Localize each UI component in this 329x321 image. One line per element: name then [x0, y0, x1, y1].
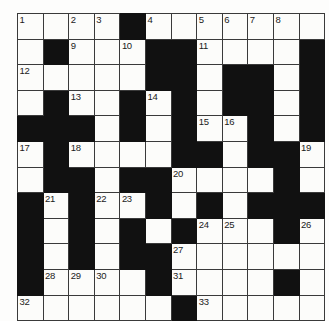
crossword-cell[interactable] — [120, 295, 146, 321]
crossword-cell-numbered[interactable]: 28 — [43, 269, 69, 295]
crossword-cell-numbered[interactable]: 2 — [69, 14, 95, 40]
crossword-cell[interactable] — [299, 14, 325, 40]
crossword-cell-numbered[interactable]: 7 — [248, 14, 274, 40]
crossword-cell[interactable] — [248, 167, 274, 193]
crossword-cell-numbered[interactable]: 30 — [94, 269, 120, 295]
crossword-cell[interactable] — [94, 90, 120, 116]
crossword-cell[interactable] — [94, 295, 120, 321]
crossword-cell[interactable] — [120, 269, 146, 295]
crossword-cell[interactable] — [145, 218, 171, 244]
crossword-cell[interactable] — [299, 295, 325, 321]
crossword-cell[interactable] — [248, 244, 274, 270]
crossword-cell[interactable] — [18, 167, 44, 193]
crossword-cell-numbered[interactable]: 22 — [94, 193, 120, 219]
crossword-cell-numbered[interactable]: 26 — [299, 218, 325, 244]
crossword-cell[interactable] — [248, 269, 274, 295]
crossword-cell[interactable] — [43, 244, 69, 270]
crossword-cell-numbered[interactable]: 16 — [222, 116, 248, 142]
crossword-cell-numbered[interactable]: 31 — [171, 269, 197, 295]
crossword-cell[interactable] — [145, 116, 171, 142]
crossword-cell[interactable] — [69, 295, 95, 321]
crossword-cell[interactable] — [197, 65, 223, 91]
crossword-cell[interactable] — [248, 39, 274, 65]
crossword-cell-numbered[interactable]: 14 — [145, 90, 171, 116]
crossword-cell[interactable] — [94, 39, 120, 65]
crossword-cell[interactable] — [197, 244, 223, 270]
crossword-cell[interactable] — [248, 295, 274, 321]
crossword-cell-numbered[interactable]: 5 — [197, 14, 223, 40]
crossword-cell[interactable] — [69, 65, 95, 91]
crossword-cell[interactable] — [222, 167, 248, 193]
crossword-block-cell — [273, 218, 299, 244]
crossword-cell-numbered[interactable]: 29 — [69, 269, 95, 295]
crossword-cell[interactable] — [222, 39, 248, 65]
crossword-cell-numbered[interactable]: 25 — [222, 218, 248, 244]
crossword-cell[interactable] — [222, 295, 248, 321]
crossword-cell[interactable] — [197, 90, 223, 116]
crossword-cell-numbered[interactable]: 24 — [197, 218, 223, 244]
crossword-cell[interactable] — [18, 90, 44, 116]
crossword-cell[interactable] — [94, 116, 120, 142]
crossword-cell[interactable] — [222, 193, 248, 219]
crossword-cell[interactable] — [222, 269, 248, 295]
crossword-row: 12345678 — [18, 14, 325, 40]
crossword-cell[interactable] — [43, 65, 69, 91]
crossword-cell-numbered[interactable]: 18 — [69, 141, 95, 167]
crossword-cell-numbered[interactable]: 12 — [18, 65, 44, 91]
crossword-cell[interactable] — [273, 65, 299, 91]
crossword-cell[interactable] — [43, 295, 69, 321]
crossword-cell[interactable] — [273, 90, 299, 116]
crossword-cell-numbered[interactable]: 15 — [197, 116, 223, 142]
crossword-cell[interactable] — [222, 141, 248, 167]
crossword-cell-numbered[interactable]: 27 — [171, 244, 197, 270]
crossword-cell[interactable] — [171, 193, 197, 219]
crossword-cell-numbered[interactable]: 20 — [171, 167, 197, 193]
crossword-cell-numbered[interactable]: 32 — [18, 295, 44, 321]
crossword-cell[interactable] — [273, 244, 299, 270]
crossword-cell[interactable] — [120, 65, 146, 91]
crossword-cell[interactable] — [145, 295, 171, 321]
crossword-cell[interactable] — [299, 269, 325, 295]
crossword-cell[interactable] — [222, 244, 248, 270]
crossword-block-cell — [171, 90, 197, 116]
crossword-cell[interactable] — [94, 244, 120, 270]
crossword-cell-numbered[interactable]: 13 — [69, 90, 95, 116]
crossword-cell[interactable] — [94, 65, 120, 91]
crossword-block-cell — [69, 244, 95, 270]
crossword-cell-numbered[interactable]: 11 — [197, 39, 223, 65]
crossword-cell[interactable] — [273, 295, 299, 321]
crossword-cell-numbered[interactable]: 17 — [18, 141, 44, 167]
crossword-cell[interactable] — [94, 218, 120, 244]
crossword-cell[interactable] — [145, 141, 171, 167]
crossword-cell-numbered[interactable]: 23 — [120, 193, 146, 219]
crossword-cell[interactable] — [299, 244, 325, 270]
crossword-cell-numbered[interactable]: 6 — [222, 14, 248, 40]
crossword-cell[interactable] — [299, 167, 325, 193]
crossword-cell-numbered[interactable]: 1 — [18, 14, 44, 40]
crossword-cell[interactable] — [43, 218, 69, 244]
crossword-cell[interactable] — [248, 218, 274, 244]
clue-number: 26 — [301, 219, 311, 230]
crossword-cell-numbered[interactable]: 9 — [69, 39, 95, 65]
clue-number: 17 — [20, 142, 30, 153]
crossword-cell[interactable] — [18, 39, 44, 65]
crossword-cell[interactable] — [171, 14, 197, 40]
crossword-cell[interactable] — [94, 167, 120, 193]
crossword-cell-numbered[interactable]: 3 — [94, 14, 120, 40]
crossword-grid[interactable]: 1234567891011121314151617181920212223242… — [17, 13, 325, 321]
crossword-cell-numbered[interactable]: 8 — [273, 14, 299, 40]
crossword-cell-numbered[interactable]: 19 — [299, 141, 325, 167]
crossword-cell[interactable] — [43, 14, 69, 40]
crossword-cell-numbered[interactable]: 21 — [43, 193, 69, 219]
crossword-cell[interactable] — [273, 39, 299, 65]
crossword-cell-numbered[interactable]: 10 — [120, 39, 146, 65]
crossword-cell-numbered[interactable]: 33 — [197, 295, 223, 321]
clue-number: 10 — [122, 40, 132, 51]
crossword-cell[interactable] — [120, 141, 146, 167]
crossword-cell[interactable] — [197, 167, 223, 193]
crossword-cell[interactable] — [273, 116, 299, 142]
crossword-block-cell — [120, 244, 146, 270]
crossword-cell-numbered[interactable]: 4 — [145, 14, 171, 40]
crossword-cell[interactable] — [94, 141, 120, 167]
crossword-cell[interactable] — [197, 269, 223, 295]
